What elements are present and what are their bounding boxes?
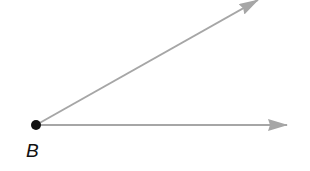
vertex-label: B [26, 140, 39, 161]
angle-diagram: B [0, 0, 310, 171]
upper-ray [36, 0, 258, 125]
vertex-point [31, 120, 41, 130]
